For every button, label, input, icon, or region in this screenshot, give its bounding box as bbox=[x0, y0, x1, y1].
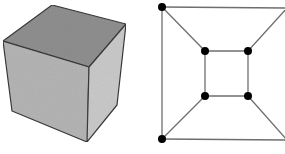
graph-edge-outer_tl-outer_tr bbox=[162, 7, 285, 8]
graph-edge-outer_br-inner_br bbox=[248, 96, 285, 140]
graph-node-inner_bl bbox=[201, 92, 209, 100]
graph-edge-outer_bl-inner_bl bbox=[162, 96, 205, 139]
graph-edge-outer_tl-inner_tl bbox=[162, 7, 205, 51]
graph-svg bbox=[142, 0, 285, 154]
cube-graph-diagram bbox=[142, 0, 285, 154]
cube-illustration bbox=[0, 0, 142, 154]
graph-edges bbox=[162, 7, 285, 140]
graph-node-inner_br bbox=[244, 92, 252, 100]
graph-node-outer_tl bbox=[158, 3, 166, 11]
cube-svg bbox=[0, 0, 142, 154]
graph-node-outer_bl bbox=[158, 135, 166, 143]
graph-edge-outer_bl-outer_br bbox=[162, 139, 285, 140]
graph-node-inner_tl bbox=[201, 47, 209, 55]
graph-node-inner_tr bbox=[244, 47, 252, 55]
graph-edge-outer_tr-inner_tr bbox=[248, 8, 285, 51]
